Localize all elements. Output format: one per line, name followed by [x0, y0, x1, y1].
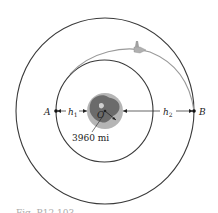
point-a-label: A — [43, 107, 51, 117]
point-b-label: B — [198, 107, 206, 117]
h2-label: h2 — [163, 107, 173, 118]
orbit-diagram: O 3960 mi A h1 h2 B Fig. P12.103 — [0, 0, 218, 213]
figure-caption: Fig. P12.103 — [16, 208, 74, 213]
earth-radius-label: 3960 mi — [72, 133, 109, 143]
spacecraft-icon — [134, 41, 146, 53]
point-b — [192, 109, 196, 113]
transfer-orbit — [70, 49, 194, 111]
h1-label: h1 — [68, 107, 78, 118]
